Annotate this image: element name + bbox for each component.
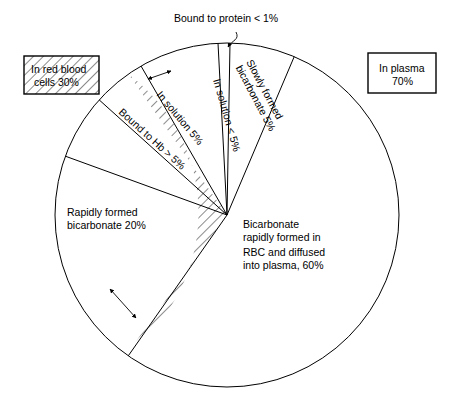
label-bound-to-protein: Bound to protein < 1% [174, 12, 278, 24]
legend-rbc-swatch [24, 56, 99, 94]
pie-chart-figure: Bound to protein < 1% In solution < 5% S… [0, 0, 457, 399]
legend-rbc-line2: cells 30% [34, 76, 79, 88]
label-rapidly-formed-line1: Rapidly formed [67, 206, 138, 218]
co2-transport-pie-diagram: Bound to protein < 1% In solution < 5% S… [0, 0, 457, 399]
legend-rbc-line1: In red blood [31, 63, 87, 75]
label-slowly-formed-bicarbonate: Slowly formed bicarbonate 5% [234, 57, 289, 133]
in-solution-5-arrow [148, 71, 171, 79]
label-in-solution-lt5: In solution < 5% [211, 77, 243, 152]
label-bicarb-diffused-line1: Bicarbonate [243, 218, 299, 230]
rbc-boundary-arrow [110, 289, 136, 318]
label-bicarb-diffused-line3: RBC and diffused [243, 246, 325, 258]
label-bicarb-diffused-line2: rapidly formed in [243, 231, 321, 243]
label-bicarb-diffused-line4: into plasma, 60% [243, 259, 324, 271]
label-rapidly-formed-line2: bicarbonate 20% [67, 219, 146, 231]
label-rapidly-formed-bicarbonate: Rapidly formed bicarbonate 20% [67, 206, 146, 231]
legend-plasma: In plasma 70% [368, 53, 436, 93]
legend-plasma-line1: In plasma [379, 62, 425, 74]
protein-callout-leader [228, 32, 237, 47]
legend-plasma-line2: 70% [392, 75, 413, 87]
label-bicarbonate-diffused: Bicarbonate rapidly formed in RBC and di… [243, 218, 325, 271]
boundary-rapid-bicarb-lower [128, 215, 227, 356]
legend-red-blood-cells: In red blood cells 30% [24, 56, 99, 94]
